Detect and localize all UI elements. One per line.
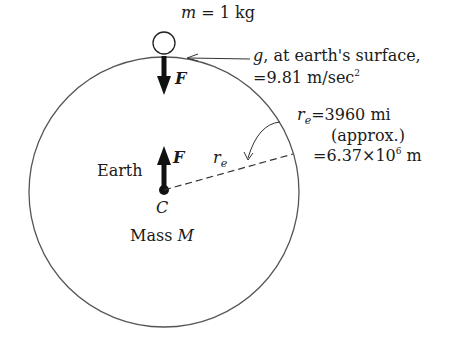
- g-exponent: 2: [354, 68, 360, 78]
- force-label-top: F: [175, 71, 186, 87]
- re-inline-sub: e: [221, 157, 228, 170]
- center-label: C: [156, 200, 168, 216]
- re-unit: m: [402, 146, 422, 165]
- re-exponent: 6: [396, 146, 402, 156]
- re-miles: =3960 mi: [311, 105, 391, 124]
- mass-M-var: M: [177, 226, 193, 245]
- mass-text: Mass: [130, 226, 177, 245]
- force-arrow-down-icon: [157, 56, 171, 95]
- force-arrow-up-icon: [157, 146, 171, 195]
- mass-label: m = 1 kg: [181, 5, 255, 21]
- g-label-line2: =9.81 m/sec2: [253, 70, 360, 86]
- g-desc: , at earth's surface,: [263, 46, 420, 65]
- radius-label-line3: =6.37×106 m: [313, 148, 422, 164]
- re-var: r: [297, 105, 305, 124]
- g-leader-arrow: [187, 54, 250, 61]
- re-inline-var: r: [213, 148, 221, 167]
- g-var: g: [253, 46, 263, 65]
- earth-mass-label: Mass M: [130, 228, 194, 244]
- g-value: =9.81 m/sec: [253, 68, 354, 87]
- mass-var: m: [181, 3, 196, 22]
- earth-label: Earth: [97, 163, 143, 179]
- radius-inline-label: re: [213, 150, 227, 169]
- force-label-center: F: [173, 150, 184, 166]
- g-label-line1: g, at earth's surface,: [253, 48, 421, 64]
- gravity-diagram: m = 1 kg F g, at earth's surface, =9.81 …: [0, 0, 470, 349]
- radius-label-line1: re=3960 mi: [297, 107, 391, 126]
- re-leader-arrow: [244, 122, 280, 160]
- radius-label-line2: (approx.): [331, 128, 405, 144]
- re-meters: =6.37×10: [313, 146, 396, 165]
- mass-circle: [153, 32, 175, 54]
- mass-value: = 1 kg: [196, 3, 255, 22]
